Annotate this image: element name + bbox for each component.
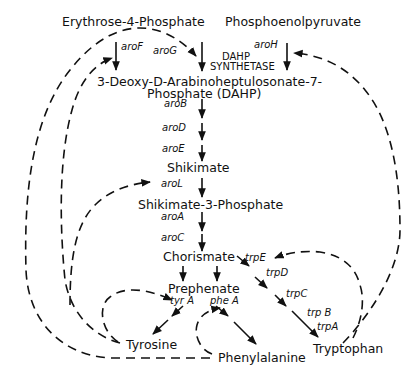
gene-trpA: trpA [317,321,338,332]
arrow-pheA-1 [216,306,228,316]
compound-phenylalanine: Phenylalanine [218,350,306,365]
gene-aroL: aroL [161,178,183,189]
compound-erythrose-4-phosphate: Erythrose-4-Phosphate [62,14,205,29]
gene-aroG: aroG [153,45,177,56]
compound-chorismate: Chorismate [163,249,235,264]
compound-tryptophan: Tryptophan [312,341,383,356]
gene-aroA: aroA [161,211,184,222]
gene-aroD: aroD [162,122,186,133]
compound-phosphoenolpyruvate: Phosphoenolpyruvate [225,14,361,29]
compound-shikimate-3-phosphate: Shikimate-3-Phosphate [138,197,283,212]
gene-trpE: trpE [245,252,266,263]
dashed-trp-to-aroH [294,53,400,343]
pathway-diagram: Erythrose-4-Phosphate Phosphoenolpyruvat… [0,0,418,374]
arrow-trpD [255,277,267,288]
arrow-tyrA-1 [172,306,183,316]
gene-aroC: aroC [161,232,184,243]
gene-tyrA: tyr A [170,295,194,306]
gene-aroE: aroE [162,143,185,154]
dashed-phe-to-pheA [196,308,220,354]
gene-trpB: trp B [307,307,332,318]
gene-pheA: phe A [209,295,239,306]
arrow-trpC [275,295,286,306]
dashed-tyr-to-tyrA [102,290,172,342]
compound-shikimate: Shikimate [167,160,230,175]
gene-aroF: aroF [121,41,143,52]
arrow-pheA-2 [234,322,256,344]
gene-trpD: trpD [266,267,288,278]
gene-trpC: trpC [286,288,307,299]
compound-prephenate: Prephenate [168,281,240,296]
enzyme-dahp-synthetase-line2: SYNTHETASE [210,61,275,72]
gene-aroB: aroB [164,98,187,109]
gene-aroH: aroH [254,39,278,50]
compound-tyrosine: Tyrosine [125,337,178,352]
arrow-tyrA-2 [153,320,168,334]
